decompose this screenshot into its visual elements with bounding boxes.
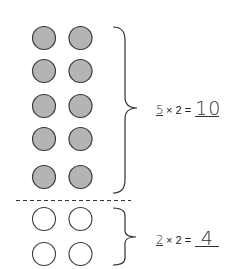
equals-sign: =: [185, 104, 191, 116]
rows-answer: 2: [156, 233, 163, 247]
filled-circle: [33, 128, 56, 151]
filled-circle-array: [33, 27, 93, 189]
filled-circle: [69, 166, 92, 189]
filled-circle: [69, 128, 92, 151]
empty-circle: [69, 208, 92, 231]
empty-circle-array: [33, 208, 93, 266]
times-sign: ×: [166, 234, 172, 246]
filled-circle: [33, 166, 56, 189]
empty-circle: [33, 208, 56, 231]
upper-brace: [113, 27, 137, 193]
lower-equation: 2 × 2 = 4: [156, 229, 219, 248]
empty-circle: [69, 243, 92, 266]
equals-sign: =: [185, 234, 191, 246]
empty-circle: [33, 243, 56, 266]
product-answer: 4: [195, 229, 219, 248]
filled-circle: [33, 27, 56, 50]
filled-circle: [69, 27, 92, 50]
upper-equation: 5 × 2 = 10: [156, 99, 219, 118]
times-sign: ×: [166, 104, 172, 116]
rows-answer: 5: [156, 103, 163, 117]
columns-factor: 2: [176, 104, 182, 116]
filled-circle: [33, 60, 56, 83]
columns-factor: 2: [176, 234, 182, 246]
filled-circle: [69, 60, 92, 83]
product-answer: 10: [195, 99, 219, 118]
filled-circle: [69, 95, 92, 118]
lower-brace: [113, 208, 136, 265]
filled-circle: [33, 95, 56, 118]
